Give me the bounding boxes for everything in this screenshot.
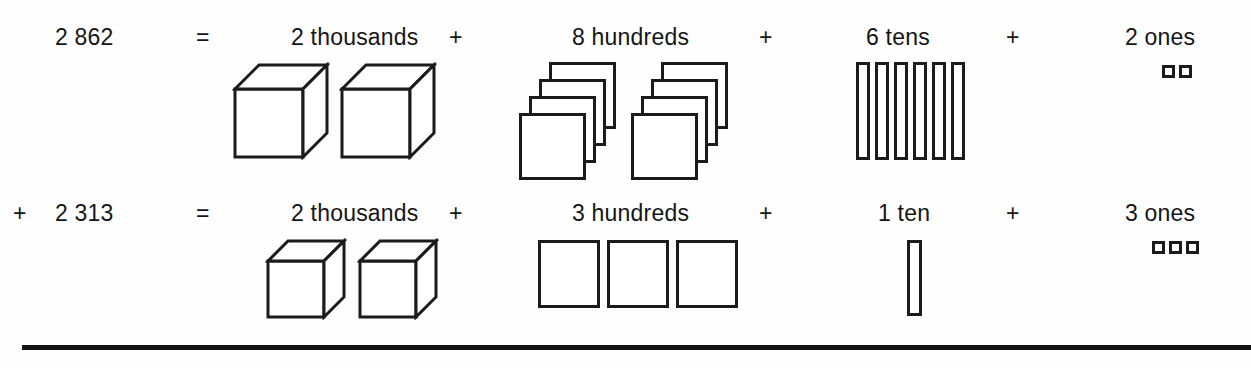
ten-rod-icon [875, 62, 889, 160]
row-2-plus-1: + [449, 200, 463, 226]
row-2-thousands-label: 2 thousands [291, 200, 419, 226]
hundred-flat-icon [607, 240, 669, 308]
ten-rod-icon [894, 62, 908, 160]
one-unit-icon [1162, 65, 1175, 78]
one-unit-icon [1169, 241, 1182, 254]
hundred-flat-icon [631, 113, 698, 180]
ten-rod-icon [932, 62, 946, 160]
ten-rod-icon [913, 62, 927, 160]
row-1-number: 2 862 [55, 24, 114, 50]
row-1-plus-2: + [759, 24, 773, 50]
hundred-flat-icon [538, 240, 600, 308]
row-1-ones-label: 2 ones [1125, 24, 1195, 50]
row-2-plus-2: + [759, 200, 773, 226]
one-unit-icon [1186, 241, 1199, 254]
row-2-tens-label: 1 ten [878, 200, 930, 226]
row-2-number: 2 313 [55, 200, 114, 226]
row-1-equals: = [196, 24, 210, 50]
one-unit-icon [1152, 241, 1165, 254]
hundred-flat-icon [519, 113, 586, 180]
thousand-cube-icon [339, 62, 437, 160]
thousand-cube-icon [232, 62, 330, 160]
row-1-hundreds-label: 8 hundreds [572, 24, 689, 50]
row-2-equals: = [196, 200, 210, 226]
row-1-thousands-label: 2 thousands [291, 24, 419, 50]
sum-rule-line [22, 345, 1251, 350]
row-2-leading-operator: + [13, 200, 27, 226]
row-1-plus-1: + [449, 24, 463, 50]
row-2-hundreds-label: 3 hundreds [572, 200, 689, 226]
row-2-plus-3: + [1006, 200, 1020, 226]
ten-rod-icon [856, 62, 870, 160]
hundred-flat-icon [676, 240, 738, 308]
worksheet-canvas: 2 862 = 2 thousands + 8 hundr [0, 0, 1251, 368]
thousand-cube-icon [265, 238, 347, 320]
one-unit-icon [1179, 65, 1192, 78]
row-1-tens-label: 6 tens [866, 24, 930, 50]
ten-rod-icon [907, 240, 922, 316]
thousand-cube-icon [357, 238, 439, 320]
row-1-plus-3: + [1006, 24, 1020, 50]
ten-rod-icon [951, 62, 965, 160]
row-2-ones-label: 3 ones [1125, 200, 1195, 226]
